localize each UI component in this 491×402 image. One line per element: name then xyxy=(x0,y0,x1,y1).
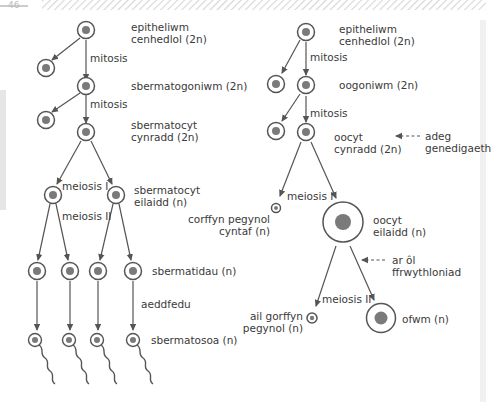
label-sperm-meiosis-2: meiosis II xyxy=(62,210,111,222)
left-gutter xyxy=(0,90,6,210)
label-primary-spermatocyte: sbermatocyt cynradd (2n) xyxy=(131,119,199,143)
label-oo-meiosis-1: meiosis I xyxy=(287,190,333,202)
label-line: pegynol (n) xyxy=(215,322,303,334)
label-second-polar-body: ail gorffyn pegynol (n) xyxy=(215,310,303,334)
label-line: sbermatocyt xyxy=(134,184,200,196)
label-after-fertilisation: ar ôl ffrwythloniad xyxy=(392,254,461,278)
label-spermatogonium: sbermatogoniwm (2n) xyxy=(131,80,247,92)
label-sperm-mitosis-2: mitosis xyxy=(90,98,128,110)
label-oo-meiosis-2: meiosis II xyxy=(322,293,371,305)
label-line: genedigaeth xyxy=(425,142,491,154)
right-gutter xyxy=(480,20,486,402)
label-line: adeg xyxy=(425,130,491,142)
label-spermatozoa: sbermatosoa (n) xyxy=(151,334,237,346)
label-oo-mitosis-1: mitosis xyxy=(310,51,348,63)
label-at-birth: adeg genedigaeth xyxy=(425,130,491,154)
label-line: oocyt xyxy=(373,214,426,226)
label-ovum: ofwm (n) xyxy=(402,313,449,325)
label-line: ail gorffyn xyxy=(215,310,303,322)
label-line: cenhedlol (2n) xyxy=(131,33,207,45)
label-line: cynradd (2n) xyxy=(334,143,402,155)
label-primary-oocyte: oocyt cynradd (2n) xyxy=(334,131,402,155)
label-oo-germinal-epithelium: epitheliwm cenhedlol (2n) xyxy=(339,23,415,47)
label-secondary-spermatocyte: sbermatocyt eilaidd (n) xyxy=(134,184,200,208)
label-sperm-mitosis-1: mitosis xyxy=(90,52,128,64)
label-line: cyntaf (n) xyxy=(175,225,270,237)
label-line: ffrwythloniad xyxy=(392,266,461,278)
label-line: eilaidd (n) xyxy=(373,226,426,238)
label-sperm-meiosis-1: meiosis I xyxy=(62,180,108,192)
label-secondary-oocyte: oocyt eilaidd (n) xyxy=(373,214,426,238)
label-oo-mitosis-2: mitosis xyxy=(310,107,348,119)
label-line: sbermatocyt xyxy=(131,119,199,131)
label-first-polar-body: corffyn pegynol cyntaf (n) xyxy=(175,213,270,237)
label-line: ar ôl xyxy=(392,254,461,266)
label-maturation: aeddfedu xyxy=(141,298,191,310)
label-line: oocyt xyxy=(334,131,402,143)
label-line: cenhedlol (2n) xyxy=(339,35,415,47)
label-line: eilaidd (n) xyxy=(134,196,200,208)
label-line: epitheliwm xyxy=(131,21,207,33)
page-number: 46 xyxy=(8,0,19,10)
label-line: epitheliwm xyxy=(339,23,415,35)
page-header xyxy=(0,0,486,10)
label-line: corffyn pegynol xyxy=(175,213,270,225)
sperm-cells xyxy=(29,334,154,385)
label-oogonium: oogoniwm (2n) xyxy=(339,79,418,91)
label-spermatids: sbermatidau (n) xyxy=(152,265,236,277)
label-sperm-germinal-epithelium: epitheliwm cenhedlol (2n) xyxy=(131,21,207,45)
label-line: cynradd (2n) xyxy=(131,131,199,143)
